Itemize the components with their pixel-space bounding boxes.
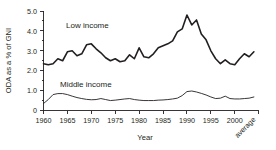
x-axis-title: Year	[137, 133, 153, 142]
chart-background	[0, 0, 276, 150]
x-tick-label-1960: 1960	[36, 116, 52, 125]
y-tick-label-0: 0	[33, 106, 37, 115]
y-axis-title: ODA as a % of GNI	[4, 28, 13, 93]
y-tick-label-5: 5.0	[27, 7, 37, 16]
x-tick-label-1975: 1975	[107, 116, 123, 125]
x-tick-label-1985: 1985	[155, 116, 171, 125]
x-tick-label-1980: 1980	[131, 116, 147, 125]
chart-figure: 0 1.0 2.0 3.0 4.0 5.0 ODA as a % of GNI …	[0, 0, 276, 150]
annotation-low-income: Low income	[66, 21, 109, 30]
x-tick-label-1995: 1995	[203, 116, 219, 125]
x-tick-label-1970: 1970	[83, 116, 99, 125]
oda-gni-line-chart: 0 1.0 2.0 3.0 4.0 5.0 ODA as a % of GNI …	[0, 0, 276, 150]
y-tick-label-3: 3.0	[27, 47, 37, 56]
x-tick-label-1990: 1990	[179, 116, 195, 125]
x-tick-label-1965: 1965	[59, 116, 75, 125]
y-tick-label-1: 1.0	[27, 86, 37, 95]
y-tick-label-4: 4.0	[27, 27, 37, 36]
annotation-middle-income: Middle income	[60, 80, 112, 89]
x-tick-label-2000: 2000	[227, 116, 243, 125]
y-tick-label-2: 2.0	[27, 66, 37, 75]
